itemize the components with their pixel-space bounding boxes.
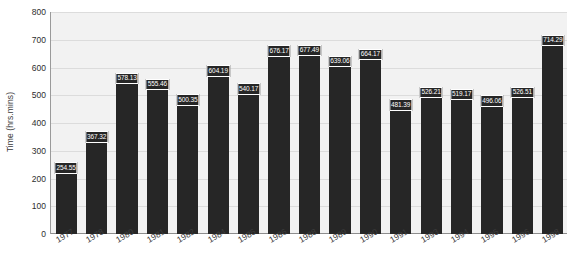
bar-slot: 540.17 <box>238 12 259 234</box>
bar-slot: 664.17 <box>360 12 381 234</box>
bar-value-label: 540.17 <box>237 83 260 95</box>
bar[interactable] <box>56 163 77 234</box>
bar-slot: 481.39 <box>390 12 411 234</box>
bar-value-label: 555.46 <box>146 79 169 91</box>
bar-value-label: 664.17 <box>359 49 382 61</box>
bar-slot: 677.49 <box>299 12 320 234</box>
bar-slot: 526.51 <box>512 12 533 234</box>
bar-value-label: 519.17 <box>450 89 473 101</box>
bar-value-label: 367.32 <box>85 131 108 143</box>
bar[interactable] <box>421 88 442 234</box>
bar-slot: 367.32 <box>86 12 107 234</box>
y-tick-label: 200 <box>20 174 46 183</box>
bar-slot: 526.21 <box>421 12 442 234</box>
bar-value-label: 639.06 <box>328 56 351 68</box>
bar[interactable] <box>86 132 107 234</box>
bar-slot: 519.17 <box>451 12 472 234</box>
bar-value-label: 500.35 <box>176 94 199 106</box>
bar-value-label: 526.51 <box>511 87 534 99</box>
bar-value-label: 496.06 <box>480 95 503 107</box>
y-tick-label: 700 <box>20 36 46 45</box>
bar-value-label: 254.55 <box>55 162 78 174</box>
bar[interactable] <box>177 95 198 234</box>
y-tick-label: 0 <box>20 230 46 239</box>
bar-slot: 676.17 <box>268 12 289 234</box>
bars-layer: 254.55367.32578.13555.46500.35604.19540.… <box>51 12 567 234</box>
y-tick-label: 300 <box>20 147 46 156</box>
bar-value-label: 604.19 <box>207 65 230 77</box>
bar-value-label: 526.21 <box>420 87 443 99</box>
bar-slot: 578.13 <box>116 12 137 234</box>
bar-value-label: 676.17 <box>267 45 290 57</box>
bar-value-label: 677.49 <box>298 45 321 57</box>
bar[interactable] <box>116 74 137 234</box>
bar-slot: 500.35 <box>177 12 198 234</box>
bar[interactable] <box>268 46 289 234</box>
bar-slot: 604.19 <box>208 12 229 234</box>
bar-slot: 714.29 <box>542 12 563 234</box>
bar[interactable] <box>147 80 168 234</box>
bar[interactable] <box>238 84 259 234</box>
bar-value-label: 578.13 <box>115 73 138 85</box>
y-axis-title-text: Time (hrs.mins) <box>5 92 15 152</box>
bar-value-label: 481.39 <box>389 99 412 111</box>
y-axis-tick-labels: 8007006005004003002001000 <box>20 12 46 234</box>
bar-value-label: 714.29 <box>541 35 564 47</box>
y-tick-label: 800 <box>20 8 46 17</box>
bar[interactable] <box>481 96 502 234</box>
y-tick-label: 600 <box>20 63 46 72</box>
bar[interactable] <box>390 100 411 234</box>
y-tick-label: 400 <box>20 119 46 128</box>
y-axis-title: Time (hrs.mins) <box>0 0 20 244</box>
bar[interactable] <box>360 50 381 234</box>
y-tick-label: 100 <box>20 202 46 211</box>
bar[interactable] <box>512 88 533 234</box>
bar[interactable] <box>451 90 472 234</box>
bar-chart: Time (hrs.mins) 800700600500400300200100… <box>0 0 572 276</box>
bar-slot: 639.06 <box>329 12 350 234</box>
y-tick-label: 500 <box>20 91 46 100</box>
bar-slot: 254.55 <box>56 12 77 234</box>
plot-area: 254.55367.32578.13555.46500.35604.19540.… <box>50 12 567 234</box>
bar[interactable] <box>542 36 563 234</box>
bar[interactable] <box>208 66 229 234</box>
x-axis-tick-labels: 1977197819801981198219841985198619881989… <box>50 236 567 276</box>
bar-slot: 496.06 <box>481 12 502 234</box>
bar[interactable] <box>299 46 320 234</box>
bar-slot: 555.46 <box>147 12 168 234</box>
bar[interactable] <box>329 57 350 234</box>
